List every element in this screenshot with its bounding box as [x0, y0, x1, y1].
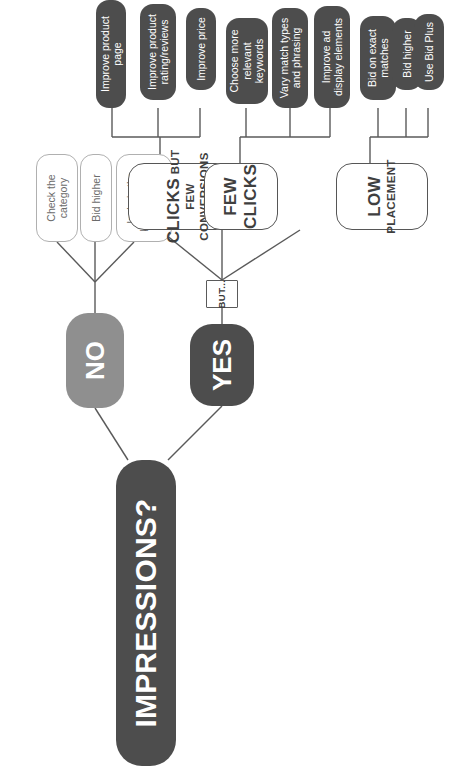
symptom-label-main: LOW: [365, 176, 385, 217]
suggestion-check-the-category[interactable]: Check the category: [36, 154, 78, 242]
action-use-bid-plus[interactable]: Use Bid Plus: [414, 14, 444, 90]
root-label: IMPRESSIONS?: [128, 498, 163, 727]
connector-node-but[interactable]: BUT...: [206, 280, 238, 308]
symptom-node-low-placement[interactable]: LOW PLACEMENT: [336, 163, 428, 230]
action-improve-ad-display-elements[interactable]: Improve ad display elements: [314, 6, 350, 108]
action-label: Choose more relevant keywords: [228, 29, 265, 92]
symptom-label-main: FEW: [221, 177, 241, 216]
action-label: Improve product page: [99, 6, 124, 102]
root-node-impressions[interactable]: IMPRESSIONS?: [116, 460, 176, 766]
action-choose-more-relevant-keywords[interactable]: Choose more relevant keywords: [226, 18, 268, 104]
symptom-label-but: BUT: [169, 150, 183, 175]
action-label: Improve ad display elements: [320, 18, 345, 96]
action-label: Bid on exact matches: [366, 29, 391, 87]
suggestion-label: Bid higher: [90, 174, 102, 221]
action-label: Improve product rating/reviews: [146, 14, 171, 90]
action-improve-product-rating-reviews[interactable]: Improve product rating/reviews: [140, 4, 176, 100]
suggestion-label: Check the category: [45, 174, 70, 221]
action-improve-price[interactable]: Improve price: [186, 8, 216, 90]
symptom-label-sub: PLACEMENT: [385, 159, 399, 233]
branch-node-yes[interactable]: YES: [190, 324, 254, 406]
branch-label-yes: YES: [207, 339, 238, 391]
action-bid-on-exact-matches[interactable]: Bid on exact matches: [360, 16, 396, 100]
branch-label-no: NO: [80, 341, 111, 380]
branch-node-no[interactable]: NO: [66, 313, 124, 408]
action-label: Bid higher: [401, 30, 413, 77]
connector-label-but: BUT...: [216, 280, 227, 309]
symptom-node-few-clicks[interactable]: FEW CLICKS: [204, 163, 278, 230]
action-improve-product-page[interactable]: Improve product page: [96, 0, 126, 108]
action-label: Improve price: [195, 17, 207, 81]
suggestion-bid-higher[interactable]: Bid higher: [80, 154, 112, 242]
symptom-label-main: CLICKS: [164, 178, 184, 243]
symptom-label-sub: CLICKS: [241, 164, 261, 229]
action-label: Use Bid Plus: [423, 22, 435, 82]
action-vary-match-types-and-phrasing[interactable]: Vary match types and phrasing: [272, 8, 308, 108]
action-label: Vary match types and phrasing: [278, 18, 303, 98]
